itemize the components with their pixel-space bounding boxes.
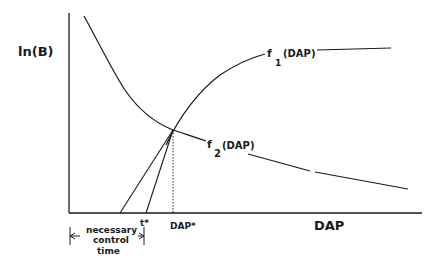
dap-star-label: DAP* [170,221,196,231]
x-axis-label: DAP [314,218,344,233]
tangent-line-left [120,130,173,213]
f1-curve [166,54,265,145]
tangent-line-right [146,130,173,213]
y-axis-label: ln(B) [18,44,54,59]
svg-text:1: 1 [275,58,281,68]
f1-label: f 1 (DAP) [267,47,316,68]
svg-text:2: 2 [214,148,221,159]
svg-text:(DAP): (DAP) [222,140,255,151]
f2-label: f 2 (DAP) [207,138,255,159]
f1-plateau [317,48,391,50]
svg-text:(DAP): (DAP) [283,48,316,59]
annotation-line3: time [97,246,120,256]
annotation-line2: control [93,235,129,245]
svg-text:f: f [267,47,272,60]
f2-curve [84,16,206,141]
t-star-label: t* [140,218,149,228]
svg-text:f: f [207,138,212,151]
diagram-canvas: ln(B) f 1 (DAP) f 2 (DAP) t* DAP* DAP ne… [0,0,438,265]
f2-curve-tail [248,154,408,189]
annotation-line1: necessary [86,225,137,235]
